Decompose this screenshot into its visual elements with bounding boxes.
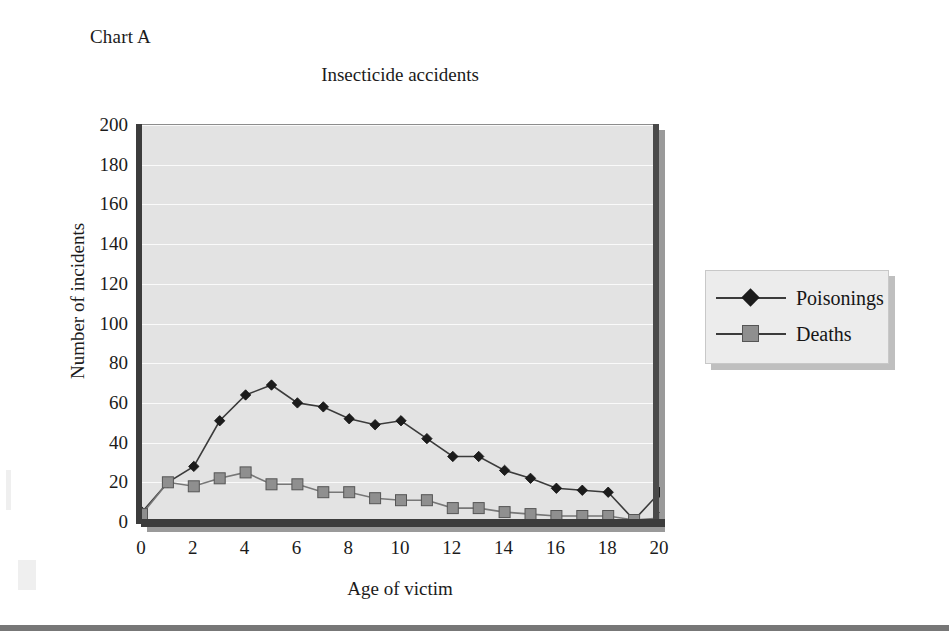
x-tick-label: 18: [587, 538, 627, 557]
x-tick-label: 6: [276, 538, 316, 557]
plot-area: [141, 124, 659, 521]
data-point-deaths-7: [318, 487, 329, 498]
y-tick-label: 100: [86, 314, 128, 333]
data-point-deaths-2: [188, 481, 199, 492]
y-tick-label: 40: [86, 433, 128, 452]
diamond-marker-icon: [716, 287, 786, 309]
data-point-deaths-13: [473, 503, 484, 514]
chart-legend: Poisonings Deaths: [705, 270, 889, 364]
data-point-deaths-10: [396, 495, 407, 506]
x-tick-label: 0: [121, 538, 161, 557]
data-point-poisonings-6: [292, 398, 302, 408]
x-tick-label: 14: [484, 538, 524, 557]
data-point-poisonings-17: [577, 485, 587, 495]
data-point-poisonings-11: [422, 433, 432, 443]
data-point-deaths-15: [525, 509, 536, 520]
data-point-poisonings-8: [344, 414, 354, 424]
data-point-poisonings-13: [474, 451, 484, 461]
y-tick-label: 80: [86, 353, 128, 372]
data-point-deaths-14: [499, 507, 510, 518]
data-point-deaths-9: [370, 493, 381, 504]
y-tick-label: 160: [86, 194, 128, 213]
x-tick-label: 4: [225, 538, 265, 557]
y-tick-label: 60: [86, 393, 128, 412]
plot-svg: [142, 125, 660, 522]
x-tick-label: 10: [380, 538, 420, 557]
y-axis-bar: [136, 124, 142, 524]
scan-artifact: [18, 560, 36, 590]
data-point-poisonings-15: [525, 473, 535, 483]
y-tick-label: 180: [86, 155, 128, 174]
legend-label: Poisonings: [796, 287, 884, 310]
data-point-poisonings-9: [370, 420, 380, 430]
y-tick-label: 20: [86, 472, 128, 491]
data-point-poisonings-12: [448, 451, 458, 461]
data-point-poisonings-14: [499, 465, 509, 475]
data-point-deaths-12: [447, 503, 458, 514]
plot-right-bar: [653, 124, 659, 522]
data-point-deaths-5: [266, 479, 277, 490]
data-point-deaths-4: [240, 467, 251, 478]
y-tick-label: 140: [86, 234, 128, 253]
x-axis-tick-labels: 02468101214161820: [0, 538, 949, 564]
x-tick-label: 2: [173, 538, 213, 557]
x-axis-bar: [141, 519, 665, 527]
legend-label: Deaths: [796, 323, 852, 346]
scan-artifact: [6, 470, 11, 510]
legend-item-poisonings: Poisonings: [716, 283, 884, 313]
data-point-deaths-1: [162, 477, 173, 488]
data-point-poisonings-2: [189, 461, 199, 471]
data-point-poisonings-5: [266, 380, 276, 390]
data-point-deaths-3: [214, 473, 225, 484]
x-tick-label: 8: [328, 538, 368, 557]
y-tick-label: 200: [86, 115, 128, 134]
x-tick-label: 12: [432, 538, 472, 557]
data-point-deaths-6: [292, 479, 303, 490]
page-bottom-rule: [0, 625, 949, 631]
x-tick-label: 20: [639, 538, 679, 557]
y-tick-label: 120: [86, 274, 128, 293]
data-point-deaths-11: [421, 495, 432, 506]
data-point-poisonings-16: [551, 483, 561, 493]
chart-page: Chart A Insecticide accidents Number of …: [0, 0, 949, 642]
y-tick-label: 0: [86, 512, 128, 531]
data-point-deaths-8: [344, 487, 355, 498]
data-point-deaths-0: [142, 509, 148, 520]
legend-item-deaths: Deaths: [716, 319, 852, 349]
plot-bottom-shadow-bar: [147, 527, 665, 532]
data-point-poisonings-7: [318, 402, 328, 412]
x-axis-title: Age of victim: [141, 578, 659, 600]
x-tick-label: 16: [535, 538, 575, 557]
data-point-poisonings-10: [396, 416, 406, 426]
chart-title: Insecticide accidents: [141, 64, 659, 86]
square-marker-icon: [716, 323, 786, 345]
